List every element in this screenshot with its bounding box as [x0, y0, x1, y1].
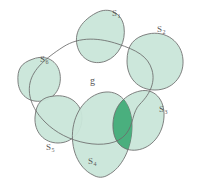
label-S4: S4: [88, 157, 96, 166]
label-S2: S2: [157, 25, 165, 34]
label-S1: S1: [112, 9, 120, 18]
set-cover-diagram: [0, 0, 200, 179]
label-S6: S6: [40, 55, 48, 64]
label-ground-set-g: g: [90, 76, 95, 86]
subset-shape-S2: [127, 33, 183, 90]
diagram-canvas: S1 S2 S3 S4 S5 S6 g: [0, 0, 200, 179]
label-S5: S5: [46, 143, 54, 152]
set-shapes-group: [18, 10, 183, 177]
label-S3: S3: [159, 105, 167, 114]
